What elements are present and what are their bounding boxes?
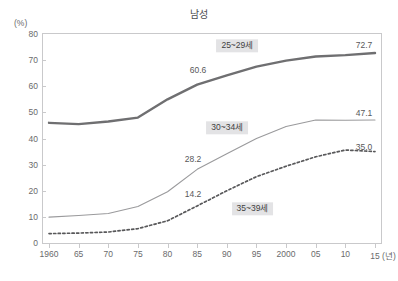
x-axis-tick: 85 (192, 249, 201, 259)
data-value-label: 72.7 (356, 40, 373, 50)
data-value-label: 28.2 (185, 154, 202, 164)
y-axis-unit-label: (%) (14, 18, 27, 28)
y-axis-tick: 30 (14, 160, 38, 170)
y-axis-tickmark (42, 217, 46, 218)
series-tag-0: 25~29세 (216, 39, 258, 52)
x-axis-tickmark (345, 244, 346, 248)
series-line-0 (49, 53, 375, 124)
x-axis-tick: 65 (74, 249, 83, 259)
x-axis-tick: 10 (341, 249, 350, 259)
x-axis-tick: 95 (252, 249, 261, 259)
x-axis-tick: 70 (104, 249, 113, 259)
x-axis-tick: 15 (년) (370, 249, 395, 261)
y-axis-tick: 0 (14, 238, 38, 248)
x-axis-tick: 75 (133, 249, 142, 259)
x-axis-tickmark (168, 244, 169, 248)
y-axis-tickmark (42, 139, 46, 140)
x-axis-tick-labels: 1960657075808590952000051015 (년) (42, 249, 382, 269)
x-axis-tick: 2000 (277, 249, 296, 259)
plot-area (42, 33, 382, 244)
x-axis-tick: 1960 (40, 249, 59, 259)
series-tag-1: 30~34세 (206, 121, 248, 134)
y-axis-tick-labels: 80706050403020100 (10, 33, 38, 244)
data-value-label: 60.6 (190, 65, 207, 75)
x-axis-tickmark (316, 244, 317, 248)
series-tag-2: 35~39세 (232, 202, 274, 215)
y-axis-tickmark (42, 112, 46, 113)
x-axis-tickmark (256, 244, 257, 248)
series-lines-svg (43, 34, 381, 243)
x-axis-tickmark (227, 244, 228, 248)
x-axis-tickmark (49, 244, 50, 248)
x-axis-tick: 05 (311, 249, 320, 259)
y-axis-tick: 20 (14, 186, 38, 196)
y-axis-tick: 60 (14, 81, 38, 91)
x-axis-tickmark (79, 244, 80, 248)
x-axis-tickmark (375, 244, 376, 248)
y-axis-tickmark (42, 191, 46, 192)
chart-figure: 남성 (%) 80706050403020100 196065707580859… (0, 0, 398, 281)
series-line-2 (49, 150, 375, 234)
page-title: 남성 (0, 6, 398, 21)
x-axis-tickmark (138, 244, 139, 248)
y-axis-tickmark (42, 60, 46, 61)
data-value-label: 47.1 (356, 108, 373, 118)
y-axis-tick: 10 (14, 212, 38, 222)
series-line-1 (49, 120, 375, 217)
y-axis-tickmark (42, 165, 46, 166)
data-value-label: 14.2 (185, 189, 202, 199)
y-axis-tick: 40 (14, 134, 38, 144)
data-value-label: 35.0 (356, 142, 373, 152)
y-axis-tick: 50 (14, 107, 38, 117)
y-axis-tick: 80 (14, 29, 38, 39)
y-axis-tickmark (42, 86, 46, 87)
x-axis-tickmark (197, 244, 198, 248)
y-axis-tick: 70 (14, 55, 38, 65)
x-axis-tickmark (286, 244, 287, 248)
x-axis-tickmark (108, 244, 109, 248)
x-axis-tick: 90 (222, 249, 231, 259)
x-axis-tick: 80 (163, 249, 172, 259)
